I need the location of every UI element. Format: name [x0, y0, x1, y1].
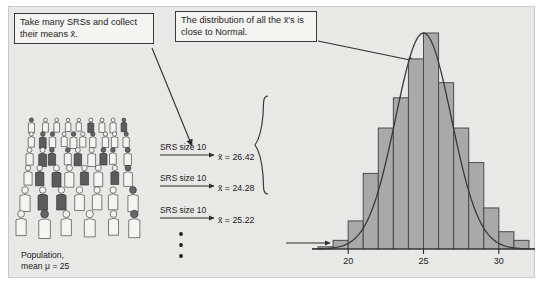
srs-row-2-label: SRS size 10 [160, 173, 206, 183]
population-caption-line1: Population, [21, 250, 69, 261]
population-caption-line2: mean μ = 25 [21, 261, 69, 272]
srs-row-2-mean: x̄ = 24.28 [218, 183, 254, 193]
srs-row-1-mean: x̄ = 26.42 [218, 152, 254, 162]
x-axis-tick-label: 30 [494, 256, 504, 266]
callout-take-many-srss: Take many SRSs and collect their means x… [14, 13, 154, 44]
population-caption: Population, mean μ = 25 [21, 250, 69, 271]
x-axis-tick-label: 25 [418, 256, 428, 266]
callout-distribution-normal: The distribution of all the x̄'s is clos… [175, 11, 317, 42]
x-axis-tick-label: 20 [343, 256, 353, 266]
srs-row-3-mean: x̄ = 25.22 [218, 215, 254, 225]
figure-page: Take many SRSs and collect their means x… [0, 0, 543, 292]
figure-panel [8, 6, 535, 278]
srs-row-1-label: SRS size 10 [160, 142, 206, 152]
srs-row-3-label: SRS size 10 [160, 205, 206, 215]
